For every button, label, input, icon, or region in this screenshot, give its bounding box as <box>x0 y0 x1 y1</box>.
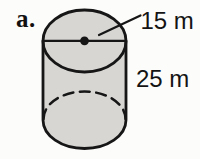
center-dot <box>80 36 89 45</box>
diameter-label: 15 m <box>141 7 194 34</box>
cylinder-figure: a. 15 m 25 m <box>0 0 200 159</box>
height-label: 25 m <box>136 65 189 92</box>
cylinder-fill-silhouette <box>43 10 126 149</box>
part-label: a. <box>16 5 36 32</box>
cylinder-diagram: a. 15 m 25 m <box>0 0 200 159</box>
